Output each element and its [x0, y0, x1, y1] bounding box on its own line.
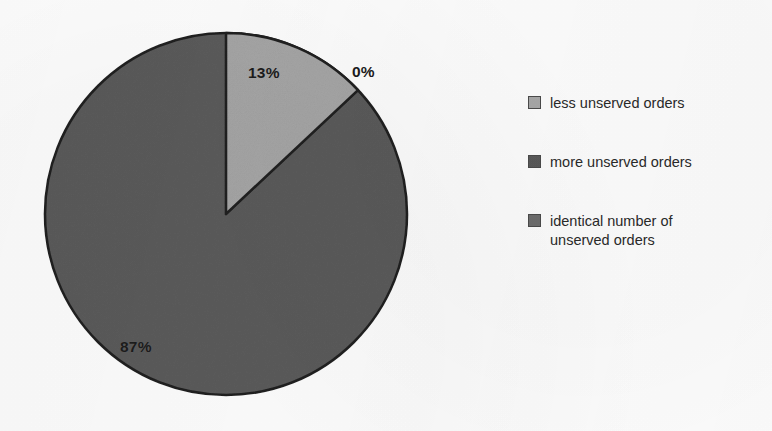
legend-swatch-icon-less-unserved-orders: [528, 96, 541, 109]
legend-label-line-2: unserved orders: [550, 231, 673, 250]
legend-item-less-unserved-orders: less unserved orders: [528, 94, 758, 113]
legend-swatch-icon-more-unserved-orders: [528, 155, 541, 168]
legend-swatch-icon-identical-number-of-unserved-orders: [528, 214, 541, 227]
legend-item-more-unserved-orders: more unserved orders: [528, 153, 758, 172]
pie-label-less-unserved-orders: 13%: [248, 64, 280, 82]
legend-label-identical-number-of-unserved-orders: identical number of unserved orders: [550, 212, 673, 250]
pie-chart-graphic: [42, 30, 410, 398]
pie-label-more-unserved-orders: 87%: [120, 338, 152, 356]
legend-label-more-unserved-orders: more unserved orders: [550, 153, 692, 172]
legend-item-identical-number-of-unserved-orders: identical number of unserved orders: [528, 212, 758, 250]
legend-label-less-unserved-orders: less unserved orders: [550, 94, 685, 113]
chart-legend: less unserved orders more unserved order…: [528, 94, 758, 250]
legend-label-line-1: identical number of: [550, 213, 673, 229]
pie-chart-figure: 13% 0% 87% less unserved orders more uns…: [0, 0, 772, 431]
pie-label-identical-number-of-unserved-orders: 0%: [352, 63, 375, 81]
pie-svg: [42, 30, 410, 398]
